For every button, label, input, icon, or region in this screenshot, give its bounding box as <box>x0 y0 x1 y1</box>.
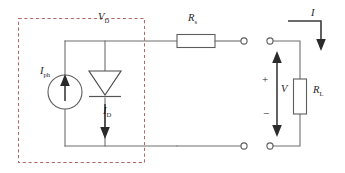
polarity-negative-sign: − <box>263 108 269 119</box>
circuit-schematic-canvas <box>0 0 345 173</box>
terminal-bottom-right <box>267 143 273 149</box>
output-current-arrow-shaft <box>288 21 321 40</box>
circuit-diagram: VD Rs I Iph ID V RL + − <box>0 0 345 173</box>
series-resistor <box>177 35 215 48</box>
terminal-bottom-left <box>241 143 247 149</box>
output-current-label: I <box>311 8 315 19</box>
output-voltage-label: V <box>281 84 287 95</box>
diode-voltage-label: VD <box>98 12 109 25</box>
photocurrent-label: Iph <box>40 66 50 79</box>
output-voltage-arrow-head-down <box>272 125 282 137</box>
polarity-positive-sign: + <box>262 74 268 85</box>
output-current-arrow-head <box>316 39 326 51</box>
terminal-top-left <box>241 38 247 44</box>
diode-current-arrow-head <box>100 127 110 139</box>
load-resistor <box>294 79 307 114</box>
load-resistor-label: RL <box>313 85 323 98</box>
diode-current-label: ID <box>103 106 111 119</box>
terminal-top-right <box>267 38 273 44</box>
output-voltage-arrow-head-up <box>272 51 282 63</box>
series-resistor-label: Rs <box>188 13 197 26</box>
diode-triangle <box>89 71 121 95</box>
